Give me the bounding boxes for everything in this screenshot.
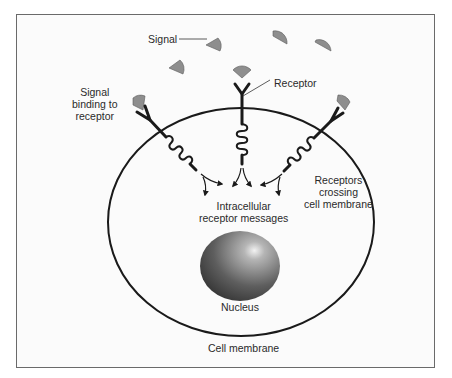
signal-binding-line-3: receptor <box>72 110 118 122</box>
nucleus-label: Nucleus <box>221 301 259 313</box>
message-arrows <box>201 168 282 195</box>
receptors-crossing-label: Receptors crossing cell membrane <box>304 174 373 210</box>
signal-icon <box>315 40 331 51</box>
receptor-center <box>235 84 249 164</box>
signal-icon <box>233 66 251 78</box>
receptors-crossing-line-3: cell membrane <box>304 198 373 210</box>
receptor-left <box>137 106 196 170</box>
signal-label: Signal <box>148 33 177 45</box>
signal-binding-line-2: binding to <box>72 98 118 110</box>
nucleus <box>200 231 280 301</box>
signal-icon <box>169 60 184 74</box>
signal-icon <box>133 95 145 110</box>
intracellular-line-1: Intracellular <box>199 200 288 212</box>
cell-membrane-label: Cell membrane <box>208 342 279 354</box>
intracellular-messages-label: Intracellular receptor messages <box>199 200 288 224</box>
intracellular-line-2: receptor messages <box>199 212 288 224</box>
signal-icon <box>206 38 221 51</box>
signal-binding-label: Signal binding to receptor <box>72 86 118 122</box>
signal-icon <box>273 31 287 44</box>
receptors-crossing-line-1: Receptors <box>304 174 373 186</box>
receptors-crossing-line-2: crossing <box>304 186 373 198</box>
receptor-label: Receptor <box>274 77 317 89</box>
signal-binding-line-1: Signal <box>72 86 118 98</box>
cell-signaling-diagram <box>0 0 452 378</box>
